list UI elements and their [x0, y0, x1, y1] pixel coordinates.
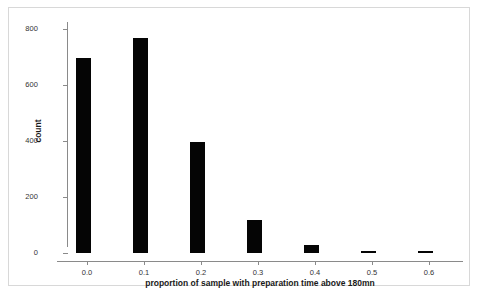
- x-tick-label-6: 0.6: [414, 268, 444, 277]
- x-tick-mark-5: [372, 261, 373, 265]
- x-tick-label-3: 0.3: [243, 268, 273, 277]
- bar-3: [247, 220, 262, 253]
- y-axis-spine: [67, 22, 68, 247]
- y-tick-label-600: 600: [10, 81, 38, 89]
- page-caption-strip: [10, 291, 330, 299]
- x-tick-mark-2: [201, 261, 202, 265]
- y-tick-label-200: 200: [10, 193, 38, 201]
- x-tick-mark-0: [87, 261, 88, 265]
- x-tick-label-2: 0.2: [186, 268, 216, 277]
- bar-0: [76, 58, 91, 253]
- bar-6: [418, 251, 433, 253]
- x-tick-mark-1: [144, 261, 145, 265]
- x-tick-mark-4: [315, 261, 316, 265]
- bar-1: [133, 38, 148, 253]
- x-tick-mark-6: [429, 261, 430, 265]
- y-tick-mark-600: [63, 85, 68, 86]
- y-tick-label-0: 0: [10, 249, 38, 257]
- y-tick-mark-800: [63, 29, 68, 30]
- figure-panel: 800 600 400 200 0 0.0 0.1 0.2 0.3 0.4 0.…: [8, 7, 470, 286]
- x-axis-spine: [57, 261, 463, 262]
- x-tick-mark-3: [258, 261, 259, 265]
- y-tick-label-800: 800: [10, 25, 38, 33]
- chart-plot-area: 800 600 400 200 0 0.0 0.1 0.2 0.3 0.4 0.…: [9, 8, 471, 287]
- bar-2: [190, 142, 205, 253]
- y-axis-title: count: [33, 101, 43, 161]
- y-tick-mark-400: [63, 141, 68, 142]
- x-tick-label-4: 0.4: [300, 268, 330, 277]
- x-axis-title: proportion of sample with preparation ti…: [57, 278, 463, 288]
- x-tick-label-1: 0.1: [129, 268, 159, 277]
- bar-5: [361, 251, 376, 253]
- x-tick-label-5: 0.5: [357, 268, 387, 277]
- y-tick-mark-0: [63, 253, 68, 254]
- y-tick-mark-200: [63, 197, 68, 198]
- x-tick-label-0: 0.0: [72, 268, 102, 277]
- bar-4: [304, 245, 319, 253]
